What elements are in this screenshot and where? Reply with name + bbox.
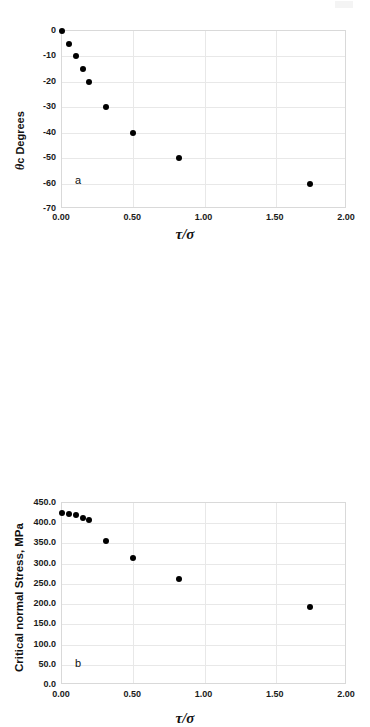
y-tick-label: -40 (43, 127, 56, 137)
data-point (80, 515, 86, 521)
y-tick-label: 0.0 (43, 679, 56, 689)
y-tick-label: -30 (43, 101, 56, 111)
data-point (66, 511, 72, 517)
data-point (130, 555, 136, 561)
x-axis-title-b: τ/σ (0, 710, 370, 727)
gridline-horizontal (62, 158, 345, 159)
y-axis-title-a-rest: c Degrees (14, 111, 26, 164)
chart-panel-a: 0-10-20-30-40-50-60-70 0.000.501.001.502… (0, 0, 370, 256)
y-tick-label: -60 (43, 178, 56, 188)
data-point (307, 604, 313, 610)
x-tick-label: 2.00 (337, 689, 355, 699)
data-point (80, 66, 86, 72)
gridline-vertical (276, 503, 277, 683)
data-point (86, 517, 92, 523)
gridline-vertical (133, 31, 134, 207)
gridline-horizontal (62, 645, 345, 646)
y-tick-label: 100.0 (33, 639, 56, 649)
y-tick-label: 50.0 (38, 659, 56, 669)
gridline-vertical (276, 31, 277, 207)
plot-area-b (61, 502, 346, 684)
data-point (73, 512, 79, 518)
x-tick-label: 1.00 (195, 212, 213, 222)
y-tick-label: 200.0 (33, 598, 56, 608)
gridline-horizontal (62, 82, 345, 83)
y-axis-ticks-b: 450.0400.0350.0300.0250.0200.0150.0100.0… (4, 502, 56, 684)
data-point (66, 41, 72, 47)
data-point (130, 130, 136, 136)
gridline-horizontal (62, 56, 345, 57)
gridline-horizontal (62, 624, 345, 625)
gridline-vertical (205, 31, 206, 207)
chart-panel-b: 450.0400.0350.0300.0250.0200.0150.0100.0… (0, 240, 370, 513)
gridline-horizontal (62, 564, 345, 565)
y-tick-label: 450.0 (33, 497, 56, 507)
plot-area-a (61, 30, 346, 208)
x-tick-label: 2.00 (337, 212, 355, 222)
gridline-horizontal (62, 523, 345, 524)
gridline-horizontal (62, 133, 345, 134)
gridline-vertical (205, 503, 206, 683)
gridline-horizontal (62, 604, 345, 605)
data-point (103, 538, 109, 544)
x-axis-ticks-b: 0.000.501.001.502.00 (0, 689, 370, 701)
data-point (59, 510, 65, 516)
data-point (86, 79, 92, 85)
x-tick-label: 0.50 (124, 212, 142, 222)
data-point (307, 181, 313, 187)
gridline-horizontal (62, 584, 345, 585)
x-axis-ticks-a: 0.000.501.001.502.00 (0, 212, 370, 224)
y-axis-title-b: Critical normal Stress, MPa (13, 523, 25, 672)
y-tick-label: 350.0 (33, 537, 56, 547)
x-tick-label: 0.00 (52, 212, 70, 222)
data-point (59, 28, 65, 34)
data-point (73, 53, 79, 59)
y-tick-label: 250.0 (33, 578, 56, 588)
data-point (176, 576, 182, 582)
gridline-vertical (133, 503, 134, 683)
y-tick-label: -20 (43, 76, 56, 86)
data-point (103, 104, 109, 110)
y-tick-label: 400.0 (33, 517, 56, 527)
x-tick-label: 1.50 (266, 689, 284, 699)
y-axis-ticks-a: 0-10-20-30-40-50-60-70 (4, 30, 56, 208)
gridline-horizontal (62, 184, 345, 185)
y-axis-title-a: θc Degrees (13, 111, 28, 170)
x-tick-label: 1.50 (266, 212, 284, 222)
y-tick-label: 300.0 (33, 558, 56, 568)
x-tick-label: 1.00 (195, 689, 213, 699)
x-tick-label: 0.50 (124, 689, 142, 699)
theta-symbol: θ (13, 164, 27, 170)
y-tick-label: 0 (51, 25, 56, 35)
y-tick-label: 150.0 (33, 618, 56, 628)
x-tick-label: 0.00 (52, 689, 70, 699)
y-tick-label: -50 (43, 152, 56, 162)
gridline-horizontal (62, 665, 345, 666)
data-point (176, 155, 182, 161)
panel-letter-a: a (75, 174, 81, 186)
y-tick-label: -10 (43, 50, 56, 60)
panel-letter-b: b (75, 657, 81, 669)
